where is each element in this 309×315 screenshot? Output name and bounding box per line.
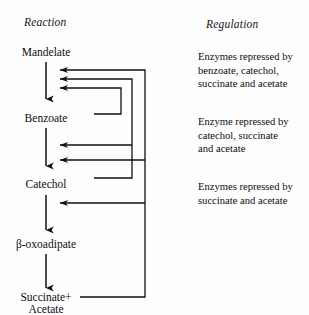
metabolite-succinate-acetate: Succinate+ Acetate <box>20 291 71 315</box>
regulation-block-catechol: Enzymes repressed by succinate and aceta… <box>198 180 309 207</box>
column-header-reaction: Reaction <box>24 16 66 28</box>
regulation-line: and acetate <box>198 142 309 156</box>
metabolite-oxoadipate: β-oxoadipate <box>16 238 76 250</box>
regulation-block-mandelate: Enzymes repressed by benzoate, catechol,… <box>198 50 309 91</box>
metabolite-mandelate: Mandelate <box>22 46 71 58</box>
regulation-line: succinate and acetate <box>198 77 309 91</box>
regulation-block-benzoate: Enzyme repressed by catechol, succinate … <box>198 115 309 156</box>
regulation-line: succinate and acetate <box>198 194 309 208</box>
pathway-regulation-figure: Reaction Regulation Mandelate B <box>0 0 309 315</box>
regulation-line: Enzymes repressed by <box>198 180 309 194</box>
regulation-line: Enzymes repressed by <box>198 50 309 64</box>
regulation-line: Enzyme repressed by <box>198 115 309 129</box>
metabolite-succinate-acetate-line2: Acetate <box>20 303 71 315</box>
column-header-regulation: Regulation <box>206 18 258 30</box>
metabolite-benzoate: Benzoate <box>25 112 68 124</box>
metabolite-succinate-acetate-line1: Succinate+ <box>20 291 71 303</box>
regulation-line: catechol, succinate <box>198 129 309 143</box>
regulation-line: benzoate, catechol, <box>198 64 309 78</box>
metabolite-catechol: Catechol <box>26 178 67 190</box>
feedback-catechol-to-mandelate <box>60 79 132 178</box>
feedback-benzoate-to-mandelate <box>60 88 121 114</box>
feedback-products-to-mandelate <box>60 70 145 297</box>
